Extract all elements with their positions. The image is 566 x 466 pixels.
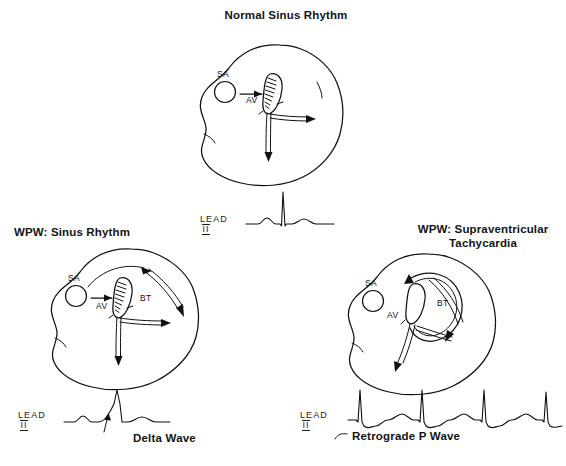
av-node-normal [263, 74, 282, 114]
lead-label-wpw-sinus: LEADII [18, 410, 46, 431]
lead-text-wpw-sinus: LEAD [18, 410, 46, 420]
conduction-bundle-wpw-sinus [109, 306, 171, 366]
lead-label-normal: LEADII [200, 214, 228, 235]
lead-numeral-normal: II [202, 224, 210, 235]
lead-numeral-wpw-sinus: II [20, 420, 28, 431]
panel-title-wpw-svt: WPW: Supraventricular Tachycardia [400, 222, 566, 250]
lead-label-wpw-svt: LEADII [300, 410, 328, 431]
sa-node-label-wpw-sinus: SA [68, 273, 80, 283]
delta-wave-annotation: Delta Wave [133, 432, 196, 444]
lead-text-normal: LEAD [200, 214, 228, 224]
av-node-wpw-sinus [113, 278, 132, 318]
lead-numeral-wpw-svt: II [302, 420, 310, 431]
delta-wave-pointer [104, 413, 111, 432]
sa-node-wpw-sinus [66, 286, 87, 307]
panel-title-wpw-sinus-rhythm: WPW: Sinus Rhythm [14, 225, 164, 239]
heart-diagram-normal: SA AV [185, 40, 375, 190]
retrograde-p-wave-annotation: Retrograde P Wave [352, 430, 460, 442]
ecg-tracing-wpw-sinus [18, 382, 208, 432]
sa-node-wpw-svt [363, 291, 384, 312]
heart-diagram-wpw-sinus: SA AV BT [28, 243, 228, 395]
av-node-label-normal: AV [246, 95, 258, 105]
bypass-tract-arrow-wpw-sinus [88, 266, 152, 287]
retrograde-p-wave-pointer [334, 430, 350, 442]
ecg-tracing-wpw-svt [300, 382, 566, 432]
bt-node-label-wpw-sinus: BT [140, 293, 152, 303]
av-node-label-wpw-sinus: AV [96, 301, 108, 311]
sa-node-label-normal: SA [217, 69, 229, 79]
conduction-bundle-normal [259, 102, 316, 162]
panel-title-normal-sinus-rhythm: Normal Sinus Rhythm [198, 8, 374, 22]
av-node-wpw-svt [406, 284, 425, 324]
sa-node-normal [215, 82, 236, 103]
sa-node-label-wpw-svt: SA [365, 278, 377, 288]
conduction-bundle-wpw-svt [394, 320, 452, 372]
heart-diagram-wpw-svt: SA AV BT [325, 248, 525, 400]
lead-text-wpw-svt: LEAD [300, 410, 328, 420]
av-node-label-wpw-svt: AV [387, 310, 399, 320]
